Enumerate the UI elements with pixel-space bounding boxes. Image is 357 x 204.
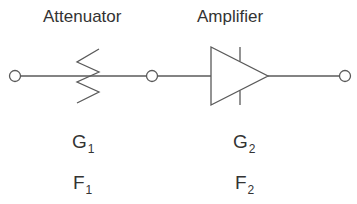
amplifier-title: Amplifier <box>197 7 263 26</box>
amplifier-icon <box>211 47 268 105</box>
attenuator-title: Attenuator <box>43 7 122 26</box>
noise-label-2: F2 <box>235 172 255 197</box>
gain-label-1: G1 <box>72 131 95 156</box>
noise-label-1: F1 <box>73 172 93 197</box>
gain-label-2: G2 <box>233 131 256 156</box>
input-terminal-icon <box>10 71 21 82</box>
cascade-diagram: Attenuator Amplifier G1 G2 F1 F2 <box>0 0 357 204</box>
interstage-terminal-icon <box>147 71 158 82</box>
output-terminal-icon <box>340 71 351 82</box>
